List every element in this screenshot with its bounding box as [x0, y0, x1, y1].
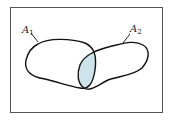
venn-diagram: A1 A2 — [0, 0, 172, 120]
